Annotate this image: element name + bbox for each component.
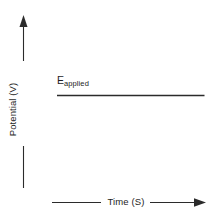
up-arrow-icon [20,15,28,27]
figure-canvas [0,0,215,218]
y-axis-label: Potential (V) [7,67,18,153]
applied-potential-label: Eapplied [57,74,89,86]
right-arrow-icon [194,198,206,206]
applied-potential-subscript: applied [64,79,89,88]
applied-potential-symbol: E [57,74,64,86]
x-axis-label: Time (S) [104,196,148,207]
y-axis-group [20,15,28,188]
potential-vs-time-figure: Potential (V) Time (S) Eapplied [0,0,215,218]
